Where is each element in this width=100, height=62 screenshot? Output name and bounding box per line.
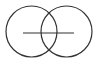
right-circle xyxy=(41,6,92,57)
overlapping-circles-diagram xyxy=(0,0,100,62)
left-circle xyxy=(6,6,57,57)
